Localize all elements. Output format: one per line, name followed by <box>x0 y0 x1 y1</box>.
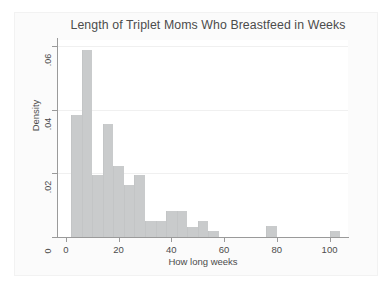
histogram-bar <box>92 175 103 237</box>
x-tick-label: 80 <box>262 244 292 255</box>
histogram-bar <box>266 226 277 237</box>
chart-title: Length of Triplet Moms Who Breastfeed in… <box>58 18 358 32</box>
histogram-bar <box>145 221 156 237</box>
histogram-bar <box>103 124 114 237</box>
histogram-bar <box>113 166 124 237</box>
y-tick-label: .06 <box>43 45 53 75</box>
histogram-bar <box>208 231 219 237</box>
x-axis-title: How long weeks <box>58 256 348 267</box>
histogram-bar <box>82 50 93 237</box>
x-tick <box>277 237 278 242</box>
histogram-bar <box>134 175 145 237</box>
y-axis-title: Density <box>30 100 41 132</box>
histogram-bar <box>177 211 188 237</box>
y-tick-label: .02 <box>43 172 53 202</box>
x-axis-line <box>57 237 349 238</box>
x-tick-label: 0 <box>51 244 81 255</box>
gridline-y-.04 <box>58 110 348 111</box>
x-tick <box>224 237 225 242</box>
histogram-bar <box>71 115 82 237</box>
x-tick-label: 100 <box>315 244 345 255</box>
gridline-y-.06 <box>58 46 348 47</box>
x-tick-label: 40 <box>156 244 186 255</box>
histogram-bar <box>198 221 209 237</box>
x-tick-label: 20 <box>104 244 134 255</box>
x-tick <box>66 237 67 242</box>
x-tick <box>119 237 120 242</box>
figure-canvas: Length of Triplet Moms Who Breastfeed in… <box>0 0 392 287</box>
histogram-bar <box>166 211 177 237</box>
x-tick <box>171 237 172 242</box>
histogram-bar <box>124 185 135 237</box>
histogram-bar <box>330 231 341 237</box>
x-tick-label: 60 <box>209 244 239 255</box>
y-tick-label: .04 <box>43 109 53 139</box>
plot-area <box>58 40 348 237</box>
histogram-bar <box>156 221 167 237</box>
x-tick <box>330 237 331 242</box>
histogram-bar <box>187 227 198 237</box>
